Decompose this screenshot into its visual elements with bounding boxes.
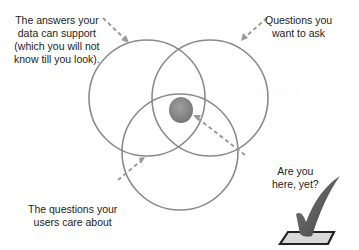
arrow-bottom-right: [196, 117, 245, 155]
label-users-care: The questions your users care about: [28, 203, 117, 229]
label-line: (which you will not: [14, 40, 100, 53]
label-questions-to-ask: Questions you want to ask: [265, 14, 332, 40]
label-line: users care about: [28, 216, 117, 229]
arrow-top-right: [244, 18, 267, 38]
arrow-top-left: [103, 18, 126, 40]
label-line: The answers your: [14, 14, 100, 27]
label-line: Are you: [272, 165, 319, 178]
intersection-blob: [169, 97, 193, 123]
label-line: The questions your: [28, 203, 117, 216]
label-line: data can support: [14, 27, 100, 40]
label-data-support: The answers your data can support (which…: [14, 14, 100, 66]
label-line: want to ask: [265, 27, 332, 40]
label-line: know till you look).: [14, 53, 100, 66]
circle-data: [89, 40, 205, 156]
label-line: here, yet?: [272, 178, 319, 191]
arrow-bottom-left: [118, 160, 142, 180]
label-are-you-here: Are you here, yet?: [272, 165, 319, 191]
label-line: Questions you: [265, 14, 332, 27]
circle-questions: [152, 40, 268, 156]
